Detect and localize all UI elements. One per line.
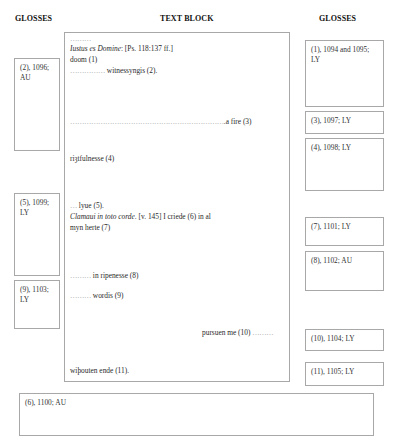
line-text: .a fire (3) [224, 117, 252, 126]
gloss-text: (11), 1105; LY [311, 367, 354, 376]
gloss-box-8: (8), 1102; AU [305, 251, 384, 291]
gloss-source: LY [20, 295, 29, 304]
ellipsis-dots: ………………………………………………………… [70, 117, 224, 126]
gloss-text: (10), 1104; LY [311, 334, 355, 343]
gloss-box-11: (11), 1105; LY [305, 362, 384, 386]
text-line-3: doom (1) [70, 55, 97, 64]
line-text: myn herte (7) [70, 223, 110, 232]
gloss-source: LY [311, 55, 320, 64]
latin-incipit: Clamaui in toto corde [70, 212, 135, 221]
gloss-text: (6), 1100; AU [25, 398, 66, 407]
ellipsis-dots: ……… [70, 34, 91, 43]
left-glosses-heading: GLOSSES [15, 14, 52, 23]
gloss-box-6: (6), 1100; AU [19, 393, 374, 436]
line-text: wordis (9) [91, 291, 123, 300]
line-text: riȝtfulnesse (4) [70, 154, 114, 163]
line-text: lyue (5). [77, 201, 104, 210]
text-line-11: ……… wordis (9) [70, 291, 123, 300]
line-text: in ripenesse (8) [91, 271, 138, 280]
line-text: wiþouten ende (11). [70, 366, 129, 375]
right-glosses-heading: GLOSSES [319, 14, 356, 23]
gloss-box-3: (3), 1097; LY [305, 111, 384, 134]
text-line-8: Clamaui in toto corde. [v. 145] I criede… [70, 212, 211, 221]
gloss-text: (8), 1102; AU [311, 256, 352, 265]
ellipsis-dots: … [70, 201, 77, 210]
gloss-box-9: (9), 1103; LY [14, 280, 60, 329]
text-line-2: Iustus es Domine: [Ps. 118:137 ff.] [70, 44, 173, 53]
gloss-box-1: (1), 1094 and 1095; LY [305, 40, 384, 107]
line-text: witnessyngis (2). [105, 66, 157, 75]
text-line-10: ……… in ripenesse (8) [70, 271, 138, 280]
text-line-7: … lyue (5). [70, 201, 104, 210]
gloss-text: (7), 1101; LY [311, 222, 351, 231]
text-line-13: wiþouten ende (11). [70, 366, 129, 375]
gloss-ref: (2), 1096; [20, 63, 49, 72]
text-line-6: riȝtfulnesse (4) [70, 154, 114, 163]
gloss-text: (4), 1098; LY [311, 143, 351, 152]
text-line-1: ……… [70, 34, 91, 43]
line-text: doom (1) [70, 55, 97, 64]
ellipsis-dots: ……… [252, 328, 273, 337]
gloss-box-7: (7), 1101; LY [305, 217, 384, 246]
ellipsis-dots: …………… [70, 66, 105, 75]
text-line-12: pursuen me (10) ……… [202, 328, 273, 337]
gloss-box-2: (2), 1096; AU [14, 58, 60, 151]
gloss-ref: (1), 1094 and 1095; [311, 45, 369, 54]
gloss-ref: (9), 1103; [20, 285, 49, 294]
text-line-9: myn herte (7) [70, 223, 110, 232]
gloss-box-5: (5), 1099; LY [14, 193, 60, 276]
line-text: . [v. 145] I criede (6) in al [135, 212, 211, 221]
latin-incipit: Iustus es Domine [70, 44, 121, 53]
line-text: pursuen me (10) [202, 328, 252, 337]
gloss-source: AU [20, 73, 31, 82]
gloss-text: (3), 1097; LY [311, 116, 351, 125]
psalm-reference: : [Ps. 118:137 ff.] [121, 44, 173, 53]
ellipsis-dots: ……… [70, 291, 91, 300]
gloss-source: LY [20, 208, 29, 217]
text-line-4: …………… witnessyngis (2). [70, 66, 157, 75]
ellipsis-dots: ……… [70, 271, 91, 280]
gloss-box-10: (10), 1104; LY [305, 329, 384, 351]
gloss-box-4: (4), 1098; LY [305, 138, 384, 191]
gloss-ref: (5), 1099; [20, 198, 49, 207]
text-line-5: ………………………………………………………….a fire (3) [70, 117, 252, 126]
text-block-heading: TEXT BLOCK [160, 14, 214, 23]
